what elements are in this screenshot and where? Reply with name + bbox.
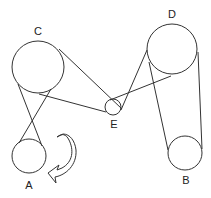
- belt-segment: [198, 52, 202, 149]
- rotation-arrow-icon: [48, 134, 76, 183]
- pulley-label-c: C: [34, 25, 42, 37]
- belt-segment: [19, 89, 51, 143]
- belt-segment: [110, 76, 171, 100]
- pulley-labels: ABCDE: [25, 8, 189, 191]
- pulley-label-e: E: [110, 118, 117, 130]
- belt-segment: [59, 49, 122, 109]
- belt-segment: [121, 50, 147, 110]
- pulleys: [12, 24, 202, 173]
- pulley-b: [168, 136, 202, 170]
- pulley-diagram: ABCDE: [0, 0, 211, 198]
- pulley-label-b: B: [182, 174, 189, 186]
- pulley-label-d: D: [168, 8, 176, 20]
- belt-segment: [149, 62, 168, 150]
- pulley-d: [147, 24, 197, 74]
- pulley-c: [12, 41, 64, 93]
- belt-segment: [39, 94, 106, 112]
- pulley-e: [105, 99, 121, 115]
- pulley-a: [12, 139, 46, 173]
- pulley-label-a: A: [25, 179, 33, 191]
